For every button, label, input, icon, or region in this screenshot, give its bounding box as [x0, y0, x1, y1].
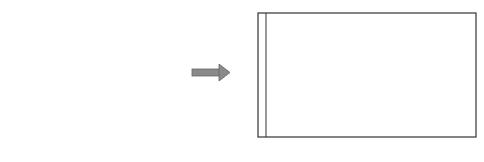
raster-frame [258, 13, 476, 137]
right-arrow-icon [192, 64, 230, 81]
figure [0, 0, 484, 162]
